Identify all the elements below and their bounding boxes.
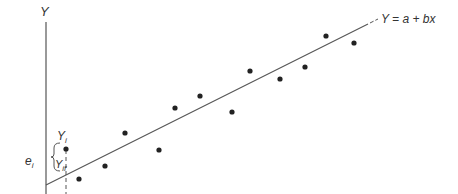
data-point [229,109,234,114]
y-axis-label: Y [40,4,50,19]
data-point [76,176,81,181]
data-point [247,68,252,73]
data-point [102,163,107,168]
data-point [156,147,161,152]
data-point [122,130,127,135]
data-point [63,146,68,151]
data-point [351,40,356,45]
regression-diagram: Y Y = a + bx Yi Yif ei [0,0,458,194]
data-point [172,105,177,110]
observed-label: Yi [57,129,67,145]
data-point [277,76,282,81]
data-point [197,93,202,98]
equation-label: Y = a + bx [381,12,436,26]
data-point [323,33,328,38]
data-points [63,33,356,181]
residual-label: ei [25,154,34,170]
regression-line-extension [370,19,378,23]
regression-line [46,24,368,185]
data-point [302,64,307,69]
